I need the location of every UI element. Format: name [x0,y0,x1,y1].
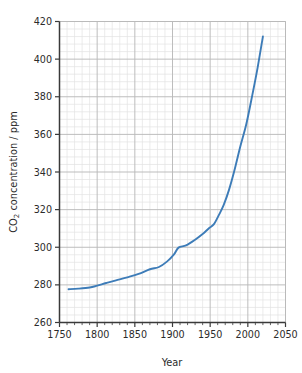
chart-canvas: 1750180018501900195020002050 26028030032… [0,0,302,373]
x-tick-label: 1800 [85,329,109,340]
y-tick-label: 400 [34,54,52,65]
y-tick-label: 300 [34,242,52,253]
x-tick-label: 1850 [123,329,147,340]
y-tick-label: 380 [34,91,52,102]
x-tick-label: 1900 [160,329,184,340]
x-tick-label: 2050 [273,329,297,340]
y-tick-label: 340 [34,167,52,178]
co2-concentration-line-chart: 1750180018501900195020002050 26028030032… [0,0,302,373]
x-tick-label: 2000 [236,329,260,340]
y-tick-label: 420 [34,16,52,27]
y-tick-label: 280 [34,279,52,290]
y-tick-label: 320 [34,204,52,215]
y-axis-tick-labels: 260280300320340360380400420 [34,16,52,328]
y-tick-label: 360 [34,129,52,140]
y-tick-label: 260 [34,317,52,328]
x-tick-label: 1950 [198,329,222,340]
x-axis-title: Year [161,357,184,368]
x-tick-label: 1750 [47,329,71,340]
